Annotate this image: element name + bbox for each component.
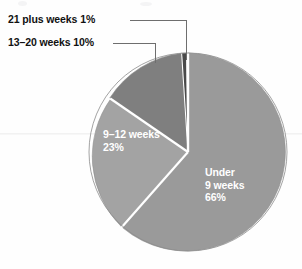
leader-line-13-20-weeks-horizontal (113, 43, 156, 44)
scan-artifact-speck (140, 2, 152, 6)
slice-label-under-9-weeks-value: 66% (205, 191, 245, 204)
slice-label-9-12-weeks: 9–12 weeks 23% (103, 128, 160, 153)
leader-line-21-plus-weeks-vertical (186, 20, 187, 60)
callout-label-13-20-weeks: 13–20 weeks 10% (8, 36, 94, 48)
pie-chart-figure: 21 plus weeks 1% 13–20 weeks 10% 9–12 we… (0, 0, 302, 269)
slice-label-under-9-weeks-category-line1: Under (205, 166, 245, 179)
leader-line-13-20-weeks-vertical (155, 43, 156, 63)
callout-label-21-plus-weeks: 21 plus weeks 1% (8, 13, 95, 25)
slice-label-under-9-weeks: Under 9 weeks 66% (205, 166, 245, 204)
slice-label-9-12-weeks-value: 23% (103, 141, 160, 154)
leader-line-21-plus-weeks-horizontal (130, 20, 187, 21)
scan-artifact-speck (18, 1, 27, 6)
slice-label-under-9-weeks-category-line2: 9 weeks (205, 179, 245, 192)
slice-label-9-12-weeks-category: 9–12 weeks (103, 128, 160, 141)
